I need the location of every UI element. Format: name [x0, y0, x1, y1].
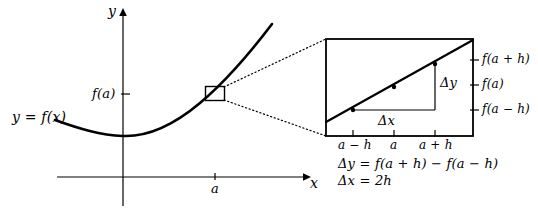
x-axis-label: x — [310, 176, 318, 190]
figure-container: y x f(a) y = f(x) a f(a + h) f(a) f(a − … — [0, 0, 538, 209]
delta-x-label: Δx — [378, 114, 395, 127]
magnifier-connector-lines — [224, 39, 326, 136]
inset-y-label-f-a-plus-h: f(a + h) — [482, 53, 530, 65]
main-axes — [57, 8, 311, 206]
connector-line-bottom — [224, 100, 326, 136]
inset-y-ticks — [470, 60, 479, 110]
inset-x-label-a-plus-h: a + h — [419, 139, 453, 151]
x-tick-label-a: a — [211, 182, 219, 195]
equation-delta-y: Δy = f(a + h) − f(a − h) — [338, 157, 498, 170]
inset-x-label-a: a — [390, 139, 397, 151]
y-axis-arrowhead — [119, 8, 127, 16]
inset-y-label-f-a: f(a) — [482, 78, 504, 90]
point-a-minus-h — [351, 108, 355, 112]
y-axis-label: y — [108, 4, 116, 18]
equation-delta-x: Δx = 2h — [338, 174, 392, 187]
inset-y-label-f-a-minus-h: f(a − h) — [482, 103, 530, 115]
y-tick-label-fa: f(a) — [92, 87, 116, 100]
inset-x-label-a-minus-h: a − h — [338, 139, 372, 151]
point-a-plus-h — [433, 62, 437, 66]
delta-y-label: Δy — [440, 76, 457, 89]
point-a — [392, 85, 396, 89]
curve-label: y = f(x) — [12, 110, 66, 124]
figure-vector-graphics — [0, 0, 538, 209]
function-curve — [55, 24, 272, 136]
